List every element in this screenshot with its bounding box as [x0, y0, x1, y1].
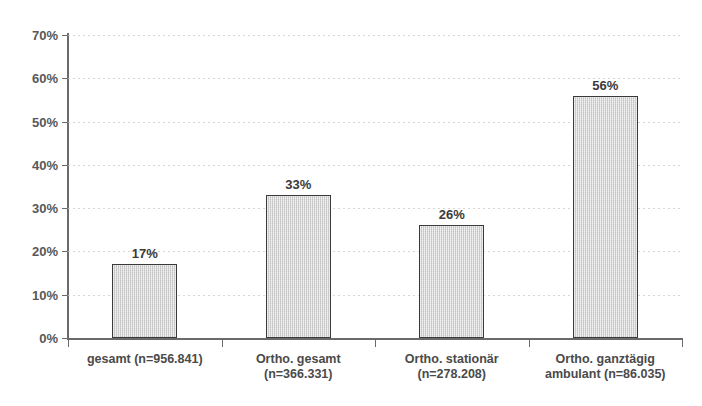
y-axis-label: 10%	[6, 289, 58, 302]
x-axis-category-line: ambulant (n=86.035)	[529, 367, 683, 382]
x-axis-category-line: (n=366.331)	[222, 367, 376, 382]
x-axis-category-line: gesamt (n=956.841)	[68, 352, 222, 367]
x-axis-category-line: Ortho. stationär	[375, 352, 529, 367]
x-axis-category-label: Ortho. ganztägigambulant (n=86.035)	[529, 352, 683, 382]
bar-chart: 70%60%50%40%30%20%10%0% 17%gesamt (n=956…	[0, 0, 702, 406]
x-axis-tick	[68, 340, 69, 347]
y-axis-label: 20%	[6, 245, 58, 258]
chart-title-clipped	[0, 0, 702, 7]
y-axis-label: 50%	[6, 116, 58, 129]
bar-value-label: 26%	[412, 208, 492, 221]
x-axis-category-label: Ortho. stationär(n=278.208)	[375, 352, 529, 382]
y-axis-tick	[62, 122, 68, 123]
gridline	[68, 35, 682, 36]
bar	[573, 96, 638, 338]
x-axis-category-label: gesamt (n=956.841)	[68, 352, 222, 367]
bar-value-label: 33%	[258, 178, 338, 191]
bar	[112, 264, 177, 338]
y-axis-labels: 70%60%50%40%30%20%10%0%	[0, 0, 58, 406]
x-axis-category-line: Ortho. gesamt	[222, 352, 376, 367]
y-axis-label: 40%	[6, 159, 58, 172]
bar	[419, 225, 484, 338]
x-axis-tick	[682, 340, 683, 347]
y-axis-tick	[62, 35, 68, 36]
bar-value-label: 17%	[105, 247, 185, 260]
x-axis-category-label: Ortho. gesamt(n=366.331)	[222, 352, 376, 382]
y-axis-tick	[62, 165, 68, 166]
x-axis-category-line: (n=278.208)	[375, 367, 529, 382]
y-axis-tick	[62, 208, 68, 209]
y-axis-tick	[62, 338, 68, 339]
x-axis-category-line: Ortho. ganztägig	[529, 352, 683, 367]
x-axis-tick	[222, 340, 223, 347]
y-axis-label: 60%	[6, 72, 58, 85]
y-axis-tick	[62, 295, 68, 296]
y-axis-label: 30%	[6, 202, 58, 215]
x-axis-tick	[529, 340, 530, 347]
x-axis-tick	[375, 340, 376, 347]
y-axis-label: 70%	[6, 29, 58, 42]
y-axis-tick	[62, 78, 68, 79]
y-axis-tick	[62, 251, 68, 252]
bar	[266, 195, 331, 338]
bar-value-label: 56%	[565, 79, 645, 92]
y-axis-label: 0%	[6, 332, 58, 345]
